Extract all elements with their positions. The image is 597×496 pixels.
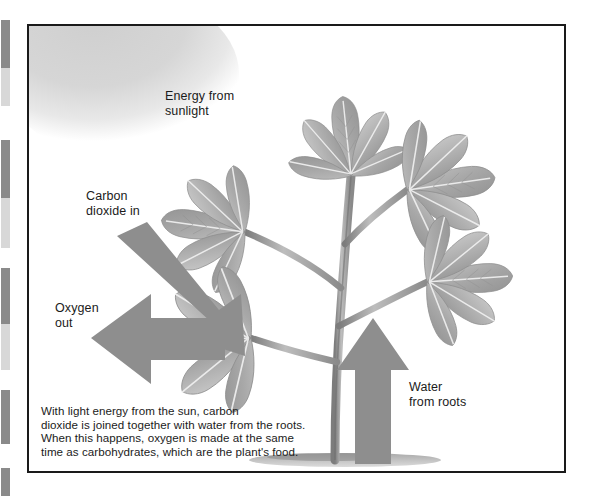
label-water-line1: Water (409, 380, 442, 394)
label-carbon-dioxide-in: Carbon dioxide in (86, 189, 140, 218)
label-energy-line1: Energy from (165, 89, 234, 103)
margin-mark-5 (1, 324, 10, 370)
label-oxygen-line2: out (55, 316, 73, 330)
caption-line-3: When this happens, oxygen is made at the… (41, 431, 341, 445)
margin-mark-0 (1, 20, 10, 68)
caption-line-1: With light energy from the sun, carbon (41, 404, 341, 418)
label-carbon-line2: dioxide in (86, 204, 140, 218)
label-water-line2: from roots (409, 395, 466, 409)
label-energy-line2: sunlight (165, 104, 209, 118)
margin-mark-7 (1, 468, 10, 496)
caption-line-4: time as carbohydrates, which are the pla… (41, 445, 341, 459)
margin-rail (0, 0, 11, 496)
label-oxygen-line1: Oxygen (55, 301, 99, 315)
margin-mark-1 (1, 68, 10, 106)
figure-frame: Energy from sunlight Carbon dioxide in O… (27, 24, 566, 473)
margin-mark-4 (1, 268, 10, 324)
label-oxygen-out: Oxygen out (55, 301, 99, 330)
caption-line-2: dioxide is joined together with water fr… (41, 418, 341, 432)
margin-mark-6 (1, 390, 10, 444)
label-energy-from-sunlight: Energy from sunlight (165, 89, 234, 118)
figure-caption: With light energy from the sun, carbon d… (41, 404, 341, 458)
margin-mark-3 (1, 198, 10, 248)
label-carbon-line1: Carbon (86, 189, 128, 203)
margin-mark-2 (1, 140, 10, 198)
arrow-up-icon (337, 318, 409, 464)
label-water-from-roots: Water from roots (409, 380, 466, 409)
